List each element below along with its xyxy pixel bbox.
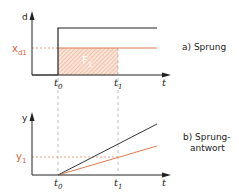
y1-label: y1 (16, 152, 26, 165)
t0-label-bottom: t0 (54, 178, 63, 191)
t-axis-label-bottom: t (162, 178, 166, 188)
t0-label-top: t0 (54, 78, 63, 91)
d-axis-arrow-icon (30, 11, 35, 20)
caption-sprungantwort-2: antwort (190, 144, 225, 153)
y-axis-arrow-icon (30, 112, 35, 121)
bottom-plot (30, 112, 172, 178)
caption-sprungantwort-1: b) Sprung- (183, 133, 231, 142)
y-axis-label: y (22, 114, 27, 123)
caption-sprung: a) Sprung (182, 43, 226, 52)
step-diagram (0, 0, 239, 193)
t1-label-top: t1 (114, 78, 123, 91)
top-plot (30, 11, 172, 78)
response-line-orange (58, 146, 157, 175)
d-axis-label: d (22, 13, 28, 22)
f1-label: F1 (82, 56, 92, 69)
t1-label-bottom: t1 (114, 178, 123, 191)
t-axis-label-top: t (162, 78, 166, 88)
xd1-label: xd1 (12, 44, 27, 57)
response-line-black (58, 124, 157, 175)
